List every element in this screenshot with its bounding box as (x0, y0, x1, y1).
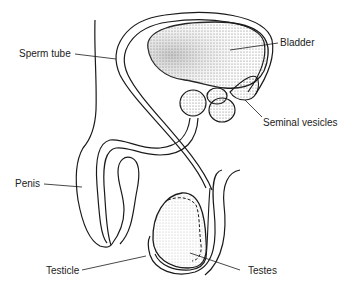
body-outline (83, 20, 96, 148)
label-testes: Testes (248, 265, 277, 277)
testes-shape (153, 193, 206, 268)
label-sperm-tube: Sperm tube (19, 48, 71, 60)
reproductive-anatomy-diagram: Sperm tube Bladder Seminal vesicles Peni… (0, 0, 352, 291)
label-testicle: Testicle (46, 265, 79, 277)
label-bladder: Bladder (280, 37, 314, 49)
label-penis: Penis (15, 178, 40, 190)
label-seminal-vesicles: Seminal vesicles (263, 117, 337, 129)
